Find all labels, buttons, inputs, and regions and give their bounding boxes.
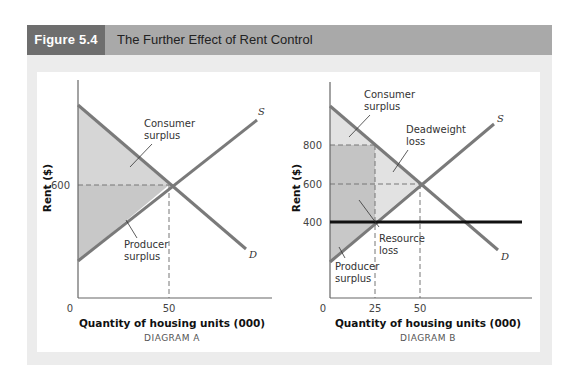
rl-label-1: Resource	[379, 233, 425, 244]
diagram-b: S D Consumer surplus Deadweight loss Res…	[290, 82, 532, 343]
demand-label: D	[500, 251, 509, 262]
diagram-a: S D Consumer surplus Producer surplus 60…	[41, 80, 272, 343]
ps-label-2: surplus	[124, 251, 160, 262]
dw-label-2: loss	[406, 136, 425, 147]
y-tick-600: 600	[303, 179, 322, 190]
transfer-area	[330, 145, 375, 222]
y-tick-800: 800	[303, 140, 322, 151]
ps-label-1: Producer	[124, 239, 169, 250]
rl-label-2: loss	[379, 245, 398, 256]
cs-label-1: Consumer	[364, 89, 416, 100]
y-axis-label: Rent ($)	[290, 164, 302, 212]
y-tick-600: 600	[51, 180, 70, 191]
dw-label-1: Deadweight	[406, 124, 466, 135]
x-tick-50: 50	[163, 303, 176, 314]
y-tick-400: 400	[303, 217, 322, 228]
x-tick-50: 50	[414, 303, 427, 314]
supply-label: S	[497, 113, 504, 124]
demand-label: D	[248, 249, 257, 260]
diagram-a-caption: DIAGRAM A	[144, 333, 200, 343]
x-axis-label: Quantity of housing units (000)	[335, 317, 521, 329]
ps-label-1: Producer	[335, 261, 380, 272]
y-axis-label: Rent ($)	[41, 164, 53, 212]
diagram-b-caption: DIAGRAM B	[400, 333, 456, 343]
origin-label: 0	[67, 303, 73, 314]
ps-label-2: surplus	[335, 273, 371, 284]
x-tick-25: 25	[369, 303, 382, 314]
cs-label-2: surplus	[144, 130, 180, 141]
charts-svg: S D Consumer surplus Producer surplus 60…	[0, 0, 572, 377]
x-axis-label: Quantity of housing units (000)	[79, 317, 265, 329]
origin-label: 0	[320, 303, 326, 314]
supply-label: S	[258, 106, 265, 117]
cs-label-2: surplus	[364, 101, 400, 112]
cs-label-1: Consumer	[144, 118, 196, 129]
ps-pointer	[126, 220, 137, 238]
